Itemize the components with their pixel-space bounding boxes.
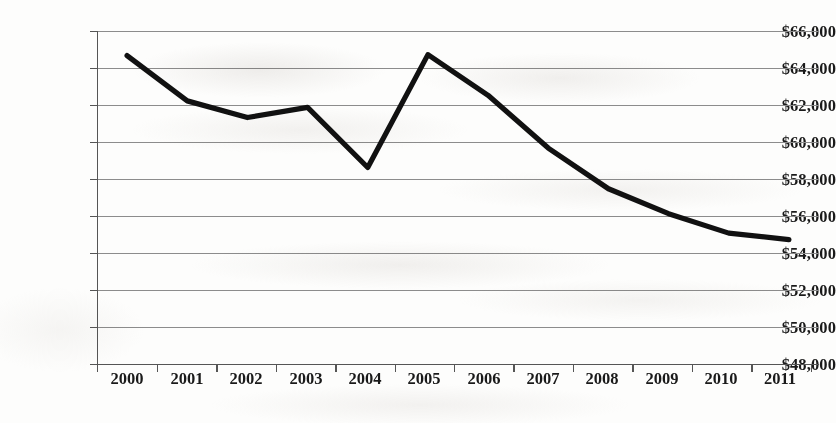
x-axis-ticks: [98, 365, 812, 372]
gridlines: [97, 32, 819, 365]
line-chart: $66,000 $64,000 $62,000 $60,000 $58,000 …: [0, 0, 836, 423]
y-axis-ticks: [90, 32, 97, 365]
plot-area: [0, 0, 836, 423]
data-series-line: [127, 55, 789, 240]
